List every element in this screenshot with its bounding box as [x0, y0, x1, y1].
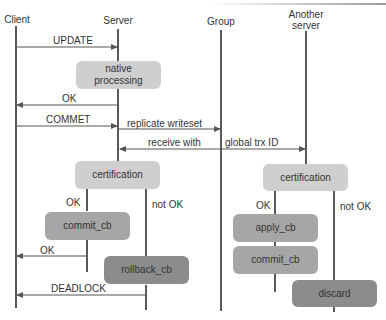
participant-client: Client	[2, 14, 32, 25]
label-another-ok: OK	[256, 200, 270, 211]
certification-box-another: certification	[263, 164, 348, 191]
native-processing-box: native processing	[76, 61, 161, 89]
rollback-cb-box: rollback_cb	[104, 256, 189, 284]
label-ok-2: OK	[40, 245, 54, 256]
label-another-not-ok: not OK	[340, 201, 371, 212]
discard-box: discard	[292, 280, 377, 307]
commit-cb-box-server: commit_cb	[45, 212, 130, 240]
sequence-diagram: Client Server Group Another server UPDAT…	[0, 0, 386, 320]
label-ok-1: OK	[62, 93, 76, 104]
label-server-ok: OK	[66, 197, 80, 208]
commit-cb-box-another: commit_cb	[233, 246, 318, 274]
participant-server: Server	[100, 15, 136, 26]
certification-box-server: certification	[75, 161, 160, 189]
label-deadlock: DEADLOCK	[51, 283, 106, 294]
apply-cb-box: apply_cb	[233, 214, 318, 242]
label-replicate-writeset: replicate writeset	[127, 118, 202, 129]
label-receive-with: receive with	[148, 137, 201, 148]
label-update: UPDATE	[53, 35, 93, 46]
participant-group: Group	[202, 16, 240, 27]
label-server-not-ok: not OK	[152, 199, 183, 210]
diagram-lines	[0, 0, 386, 320]
label-commet: COMMET	[46, 114, 90, 125]
label-global-trx-id: global trx ID	[225, 137, 278, 148]
participant-another-server: Another server	[284, 9, 328, 31]
